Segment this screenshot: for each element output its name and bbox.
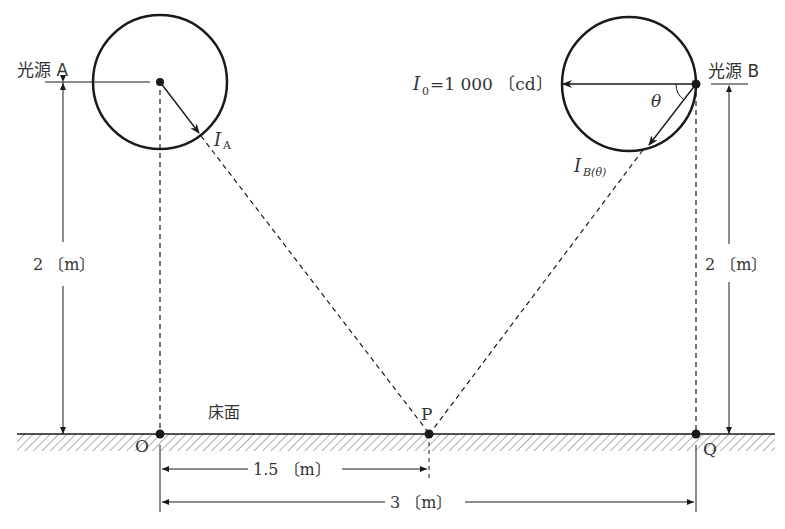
label-dim-op: 1.5 〔m〕	[253, 460, 331, 479]
label-light-source-a: 光源 A	[17, 60, 68, 80]
label-theta: θ	[651, 91, 661, 111]
label-i0-symbol: I	[412, 73, 421, 94]
label-i-a-symbol: I	[213, 129, 222, 150]
illumination-diagram: 光源 A 光源 B I A I 0 =1 000 〔cd〕 θ I B(θ) 2…	[0, 0, 785, 529]
point-p	[425, 430, 434, 439]
label-point-q: Q	[703, 439, 717, 459]
angle-arc-theta	[676, 84, 684, 100]
ray-a-to-p	[201, 136, 428, 432]
label-i-a: I A	[213, 129, 232, 152]
point-o	[156, 430, 165, 439]
label-dim-oq: 3 〔m〕	[390, 493, 452, 512]
intensity-arrow-a	[160, 82, 199, 133]
dim-arrow-b-up	[726, 85, 732, 92]
label-light-source-b: 光源 B	[708, 61, 759, 81]
label-i0: I 0 =1 000 〔cd〕	[412, 73, 553, 98]
label-i-b-theta: I B(θ)	[573, 155, 606, 179]
dim-arrow-a-up	[60, 83, 66, 90]
point-q	[692, 430, 701, 439]
light-source-a	[45, 15, 428, 434]
label-i-a-sub: A	[222, 139, 232, 152]
ray-b-to-p	[431, 150, 643, 432]
floor-hatching	[17, 434, 775, 451]
label-i0-sub: 0	[422, 85, 429, 98]
label-i-b-sub: B(θ)	[582, 166, 606, 179]
label-i-b-symbol: I	[573, 155, 582, 176]
floor	[17, 434, 775, 451]
label-height-b: 2 〔m〕	[705, 255, 767, 274]
label-point-o: O	[135, 436, 149, 456]
label-height-a: 2 〔m〕	[33, 255, 95, 274]
label-point-p: P	[421, 404, 432, 424]
label-floor: 床面	[208, 403, 240, 422]
label-i0-value: =1 000 〔cd〕	[430, 74, 553, 94]
